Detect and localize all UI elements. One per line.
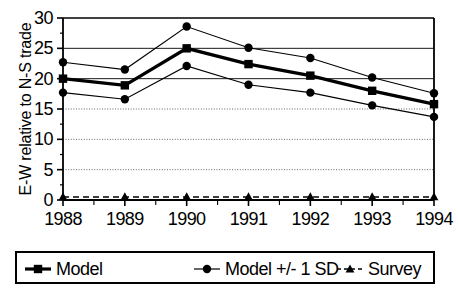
chart-legend: ModelModel +/- 1 SDSurvey: [15, 251, 435, 284]
data-point: [182, 22, 190, 30]
legend-label: Model: [56, 259, 103, 280]
data-point: [368, 101, 376, 109]
data-point: [430, 192, 439, 200]
data-point: [306, 71, 314, 79]
data-point: [121, 65, 129, 73]
square-marker-icon: [23, 260, 53, 278]
data-point: [121, 81, 129, 89]
data-point: [430, 113, 438, 121]
triangle-marker-icon: [335, 260, 365, 278]
legend-item-model-----1-sd[interactable]: Model +/- 1 SD: [192, 256, 339, 282]
data-point: [182, 44, 190, 52]
circle-marker: [203, 265, 211, 273]
data-point: [59, 74, 67, 82]
data-point: [121, 95, 129, 103]
legend-label: Survey: [368, 259, 421, 280]
legend-item-survey[interactable]: Survey: [335, 256, 421, 282]
data-point: [430, 100, 438, 108]
circle-marker-icon: [192, 260, 222, 278]
data-point: [59, 58, 67, 66]
data-point: [244, 60, 252, 68]
legend-item-model[interactable]: Model: [23, 256, 103, 282]
data-point: [368, 73, 376, 81]
square-marker: [34, 265, 42, 273]
data-point: [59, 88, 67, 96]
series-line: [63, 48, 434, 104]
data-point: [368, 87, 376, 95]
data-point: [430, 89, 438, 97]
data-point: [244, 44, 252, 52]
data-point: [306, 88, 314, 96]
data-point: [244, 81, 252, 89]
data-point: [182, 62, 190, 70]
data-point: [306, 54, 314, 62]
legend-label: Model +/- 1 SD: [225, 259, 339, 280]
